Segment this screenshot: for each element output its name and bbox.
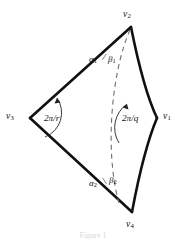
edge-v1-v4-curve [132,118,157,212]
figure-caption: Figure 1 [0,231,186,239]
edge-v2-v3 [30,27,131,118]
angle-label-beta2: β2 [109,176,117,186]
angle-label-alpha2: α2 [89,179,97,189]
edge-v2-v1-curve [131,27,157,118]
vertex-label-v1: v1 [163,112,171,122]
angle-label-beta1: β1 [108,55,116,65]
vertex-label-v2: v2 [123,10,131,20]
angle-label-2pi-over-q: 2π/q [122,114,138,123]
quadrilateral-diagram [0,0,186,239]
edge-v3-v4 [30,118,132,212]
vertex-label-v4: v4 [126,220,134,230]
angle-label-alpha1: α1 [89,55,97,65]
vertex-label-v3: v3 [6,112,14,122]
angle-label-2pi-over-r: 2π/r [44,114,59,123]
angle-arc-q [115,104,127,143]
figure-container: v2 v3 v1 v4 2π/r 2π/q α1 / β1 α2 / β2 Fi… [0,0,186,239]
